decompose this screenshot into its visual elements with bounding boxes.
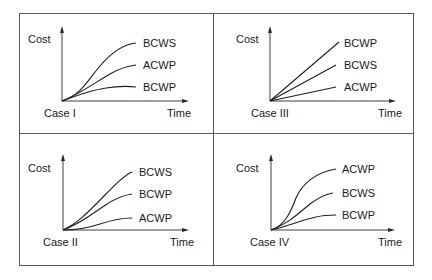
series-label-bottom: BCWP <box>143 81 176 93</box>
x-axis-label: Time <box>170 236 194 248</box>
frame <box>20 14 414 266</box>
y-axis-arrow-icon <box>268 26 272 33</box>
y-axis-arrow-icon <box>60 26 64 33</box>
series-label-bottom: ACWP <box>139 212 172 224</box>
curve-bcws <box>63 172 132 230</box>
series-label-top: BCWS <box>139 166 172 178</box>
curve-bcwp <box>62 86 136 101</box>
curve-acwp <box>270 87 336 101</box>
x-axis-arrow-icon <box>388 228 395 232</box>
x-axis-arrow-icon <box>182 228 189 232</box>
series-label-bottom: BCWP <box>342 209 375 221</box>
y-axis-label: Cost <box>236 33 259 45</box>
case-label: Case III <box>251 107 289 119</box>
series-label-middle: BCWS <box>342 187 375 199</box>
series-label-top: ACWP <box>342 163 375 175</box>
y-axis-label: Cost <box>236 162 259 174</box>
y-axis-label: Cost <box>28 162 51 174</box>
quadrant-case-ii: Cost Time Case II BCWS BCWP ACWP <box>28 154 194 248</box>
x-axis-arrow-icon <box>182 99 189 103</box>
series-label-top: BCWP <box>344 37 377 49</box>
y-axis-arrow-icon <box>61 154 65 161</box>
series-label-middle: BCWP <box>139 188 172 200</box>
case-label: Case II <box>43 236 78 248</box>
series-label-middle: ACWP <box>143 59 176 71</box>
y-axis-arrow-icon <box>269 154 273 161</box>
quadrant-case-iii: Cost Time Case III BCWP BCWS ACWP <box>236 26 402 119</box>
series-label-top: BCWS <box>143 37 176 49</box>
curve-bcws <box>270 65 336 101</box>
outer-frame <box>20 14 414 266</box>
series-label-bottom: ACWP <box>344 81 377 93</box>
y-axis-label: Cost <box>28 33 51 45</box>
series-label-middle: BCWS <box>344 59 377 71</box>
curve-acwp <box>62 65 136 101</box>
case-label: Case I <box>44 107 76 119</box>
x-axis-arrow-icon <box>389 99 396 103</box>
earned-value-cases-diagram: Cost Time Case I BCWS ACWP BCWP Cost Tim… <box>0 0 432 280</box>
case-label: Case IV <box>250 236 290 248</box>
curve-bcwp <box>270 42 339 101</box>
x-axis-label: Time <box>167 107 191 119</box>
curve-bcws <box>62 43 136 101</box>
x-axis-label: Time <box>378 236 402 248</box>
quadrant-case-i: Cost Time Case I BCWS ACWP BCWP <box>28 26 191 119</box>
x-axis-label: Time <box>378 107 402 119</box>
quadrant-case-iv: Cost Time Case IV ACWP BCWS BCWP <box>236 154 402 248</box>
curve-bcwp <box>271 215 336 230</box>
